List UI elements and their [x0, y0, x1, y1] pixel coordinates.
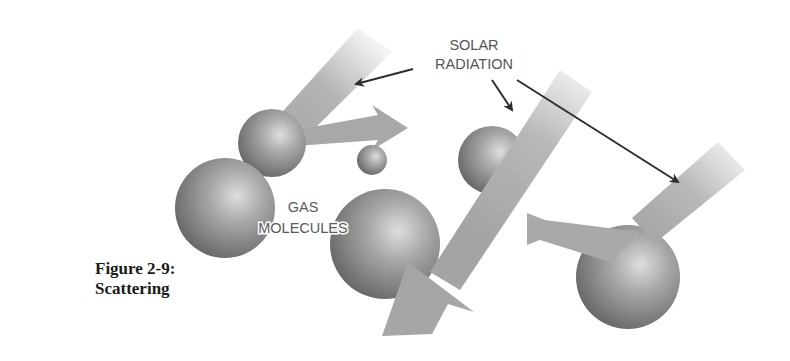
solar-radiation-label-line1: SOLAR [449, 37, 498, 53]
solar-radiation-label-line2: RADIATION [435, 56, 513, 72]
gas-molecule-3 [357, 145, 387, 175]
gas-molecule-2 [175, 158, 275, 258]
scattering-diagram: SOLAR RADIATION GAS MOLECULES [0, 0, 790, 361]
gas-molecules-label-line2: MOLECULES [258, 220, 347, 236]
pointer-to-beam-2 [492, 80, 512, 110]
gas-molecules-label-line1: GAS [288, 199, 319, 215]
